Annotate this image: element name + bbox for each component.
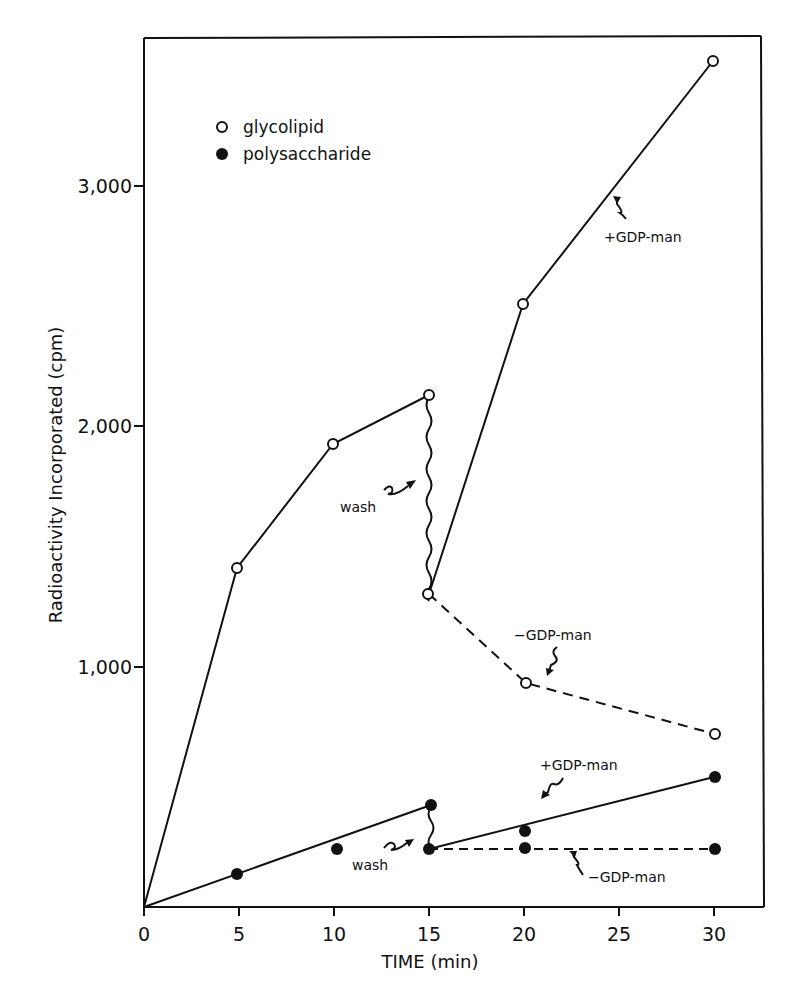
y-tick-labels: 1,000 2,000 3,000 xyxy=(78,175,132,678)
annotations: wash +GDP-man −GDP-man +GDP-man wash −GD… xyxy=(340,196,682,885)
annotation-plus-gdp-upper: +GDP-man xyxy=(604,229,682,245)
glycolipid-minus-gdp-line xyxy=(429,594,715,734)
polysaccharide-pre-wash-line xyxy=(144,805,431,907)
data-point xyxy=(425,799,437,811)
annotation-plus-gdp-lower: +GDP-man xyxy=(540,757,618,773)
data-point xyxy=(423,589,433,599)
arrowhead-icon xyxy=(546,668,554,676)
x-tick-labels: 0 5 10 15 20 25 30 xyxy=(138,923,726,945)
legend-label-glycolipid: glycolipid xyxy=(243,117,324,137)
x-tick-label: 25 xyxy=(607,923,631,945)
y-tick-label: 3,000 xyxy=(78,175,132,197)
filled-circle-marker-icon xyxy=(216,148,228,160)
data-point xyxy=(424,390,434,400)
y-ticks xyxy=(134,186,144,667)
x-tick-label: 5 xyxy=(233,923,245,945)
x-ticks xyxy=(144,907,714,916)
x-tick-label: 30 xyxy=(702,923,726,945)
y-axis-title: Radioactivity Incorporated (cpm) xyxy=(45,327,66,624)
y-tick-label: 2,000 xyxy=(78,415,132,437)
x-axis-title: TIME (min) xyxy=(381,951,479,972)
x-tick-label: 15 xyxy=(417,923,441,945)
glycolipid-series xyxy=(144,61,715,907)
line-chart: 0 5 10 15 20 25 30 TIME (min) 1,000 2,00… xyxy=(0,0,802,1000)
data-point xyxy=(709,843,721,855)
squiggle-arrow-icon xyxy=(384,842,408,850)
top-border xyxy=(144,36,761,38)
glycolipid-pre-wash-line xyxy=(144,395,429,907)
data-point xyxy=(519,842,531,854)
squiggle-arrow-icon xyxy=(384,486,408,494)
glycolipid-plus-gdp-line xyxy=(429,61,713,594)
polysaccharide-series xyxy=(144,777,714,907)
glycolipid-wash-wave xyxy=(427,397,432,601)
x-tick-label: 0 xyxy=(138,923,150,945)
x-tick-label: 10 xyxy=(322,923,346,945)
squiggle-arrow-icon xyxy=(549,647,557,671)
data-point xyxy=(709,771,721,783)
polysaccharide-wash-wave xyxy=(429,807,434,849)
right-border xyxy=(761,36,764,907)
data-point xyxy=(519,825,531,837)
data-point xyxy=(328,439,338,449)
data-point xyxy=(423,843,435,855)
data-point xyxy=(518,299,528,309)
data-point xyxy=(521,678,531,688)
plot-frame xyxy=(144,36,764,907)
data-point xyxy=(708,56,718,66)
annotation-wash-lower: wash xyxy=(352,857,388,873)
data-point xyxy=(331,843,343,855)
open-circle-marker-icon xyxy=(217,122,227,132)
legend: glycolipid polysaccharide xyxy=(216,117,371,164)
annotation-minus-gdp-lower: −GDP-man xyxy=(588,869,666,885)
legend-label-polysaccharide: polysaccharide xyxy=(243,144,371,164)
data-point xyxy=(710,729,720,739)
annotation-wash-upper: wash xyxy=(340,499,376,515)
data-point xyxy=(232,563,242,573)
polysaccharide-plus-gdp-line xyxy=(429,777,714,849)
polysaccharide-markers xyxy=(231,771,721,880)
annotation-minus-gdp-upper: −GDP-man xyxy=(514,627,592,643)
y-tick-label: 1,000 xyxy=(78,656,132,678)
x-tick-label: 20 xyxy=(512,923,536,945)
data-point xyxy=(231,868,243,880)
arrowhead-icon xyxy=(613,196,621,204)
